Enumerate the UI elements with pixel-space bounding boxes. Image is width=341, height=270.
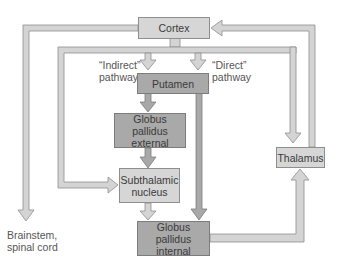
arrow-indirect-pathway [140, 53, 156, 70]
thalamus-node: Thalamus [276, 147, 325, 168]
arrow-gpe-to-subthalamic [140, 148, 156, 168]
direct-pathway-label: “Direct” pathway [212, 59, 251, 83]
putamen-label: Putamen [152, 78, 194, 90]
thalamus-label: Thalamus [277, 152, 323, 164]
subthalamic-nucleus-node: Subthalamic nucleus [119, 168, 180, 203]
cortex-node: Cortex [138, 17, 210, 39]
arrow-gpi-to-thalamus [210, 169, 309, 242]
globus-pallidus-internal-node: Globus pallidus internal [137, 221, 210, 256]
cortex-label: Cortex [159, 22, 190, 34]
arrow-putamen-to-gpe [140, 93, 156, 112]
arrow-direct-pathway [190, 53, 206, 70]
arrow-thalamus-to-cortex [211, 20, 315, 147]
globus-pallidus-external-node: Globus pallidus external [114, 113, 186, 148]
arrow-cortex-to-thalamus [285, 47, 301, 143]
arrow-subthalamic-to-gpi [140, 203, 156, 220]
brainstem-spinal-cord-label: Brainstem, spinal cord [7, 229, 58, 253]
indirect-pathway-label: “Indirect” pathway [99, 59, 140, 83]
cortex-stem [170, 38, 180, 47]
putamen-node: Putamen [137, 73, 209, 94]
arrow-putamen-to-gpi [191, 93, 207, 220]
